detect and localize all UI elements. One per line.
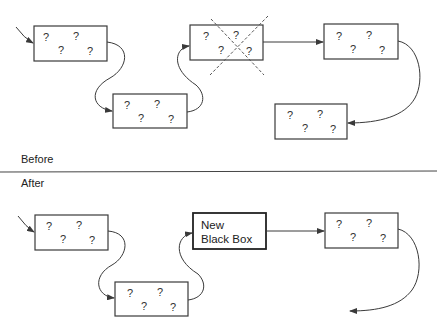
svg-text:?: ? [87, 45, 93, 57]
black-box-2: ? ? ? ? [113, 94, 187, 128]
svg-text:?: ? [46, 220, 52, 232]
svg-text:?: ? [233, 29, 239, 41]
svg-text:?: ? [73, 30, 79, 42]
svg-text:?: ? [154, 98, 160, 110]
svg-text:?: ? [89, 234, 95, 246]
black-box-4: ? ? ? ? [325, 213, 398, 248]
after-label: After [21, 177, 44, 189]
svg-text:?: ? [127, 287, 133, 299]
svg-text:?: ? [350, 43, 356, 55]
new-black-box: New Black Box [193, 213, 266, 249]
svg-text:Black Box: Black Box [201, 233, 252, 245]
black-box-3-removed: ? ? ? ? [190, 16, 268, 75]
svg-text:?: ? [124, 99, 130, 111]
svg-text:?: ? [58, 44, 64, 56]
svg-text:?: ? [380, 232, 386, 244]
entry-arrow [16, 27, 33, 43]
svg-text:?: ? [168, 113, 174, 125]
svg-text:?: ? [366, 217, 372, 229]
black-box-2: ? ? ? ? [115, 282, 188, 316]
svg-text:?: ? [317, 108, 323, 120]
black-box-4: ? ? ? ? [324, 24, 398, 59]
section-divider [0, 171, 437, 172]
svg-text:?: ? [76, 219, 82, 231]
svg-text:?: ? [218, 44, 224, 56]
after-diagram: ? ? ? ? ? ? ? ? New Black Box ? ? ? ? [18, 213, 419, 316]
svg-text:?: ? [287, 109, 293, 121]
svg-text:New: New [201, 219, 225, 231]
svg-text:?: ? [350, 231, 356, 243]
svg-text:?: ? [157, 286, 163, 298]
svg-text:?: ? [60, 233, 66, 245]
black-box-5: ? ? ? ? [275, 104, 347, 139]
diagram-canvas: ? ? ? ? ? ? ? ? ? ? ? ? [0, 0, 445, 323]
svg-text:?: ? [336, 30, 342, 42]
svg-text:?: ? [141, 300, 147, 312]
svg-text:?: ? [366, 29, 372, 41]
svg-text:?: ? [203, 30, 209, 42]
before-diagram: ? ? ? ? ? ? ? ? ? ? ? ? [16, 16, 420, 139]
svg-text:?: ? [336, 218, 342, 230]
svg-text:?: ? [379, 44, 385, 56]
svg-text:?: ? [330, 123, 336, 135]
svg-text:?: ? [138, 112, 144, 124]
svg-text:?: ? [302, 122, 308, 134]
entry-arrow [18, 216, 34, 232]
black-box-1: ? ? ? ? [34, 26, 107, 61]
before-label: Before [21, 153, 53, 165]
svg-text:?: ? [246, 45, 252, 57]
svg-text:?: ? [170, 301, 176, 313]
svg-text:?: ? [43, 31, 49, 43]
black-box-1: ? ? ? ? [35, 215, 108, 250]
